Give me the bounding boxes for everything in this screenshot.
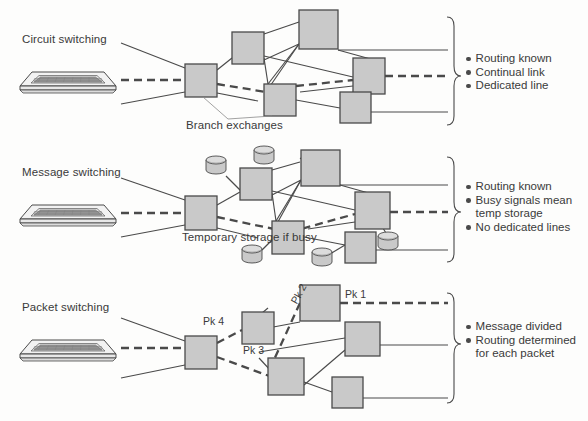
bullet-item: Continual link (466, 66, 552, 80)
bullets-circuit-switching: Routing known Continual link Dedicated l… (466, 52, 552, 93)
curly-brace-icon (447, 157, 461, 262)
storage-cylinder-icon (254, 146, 274, 164)
section-title-circuit-switching: Circuit switching (22, 33, 107, 45)
bullet-dot-icon (466, 57, 471, 62)
bullet-item: No dedicated lines (466, 221, 572, 235)
switching-node-box-icon (332, 377, 363, 408)
bullet-text: Routing known (476, 180, 552, 194)
switching-node-box-icon (355, 192, 390, 229)
packet-nodes (185, 285, 380, 408)
computer-terminal-keyboard-icon (20, 72, 116, 93)
bullet-text: Busy signals mean temp storage (476, 194, 573, 221)
section-title-message-switching: Message switching (22, 166, 121, 178)
diagram-canvas: Circuit switching Message switching Pack… (0, 0, 588, 421)
bullet-dot-icon (466, 185, 471, 190)
bullet-dot-icon (466, 84, 471, 89)
bullet-text: Message divided (476, 320, 562, 334)
bullet-text: Routing determined for each packet (476, 334, 576, 361)
computer-terminal-keyboard-icon (20, 340, 116, 361)
computer-terminal-keyboard-icon (20, 205, 116, 226)
storage-cylinder-icon (378, 232, 398, 250)
switching-node-box-icon (299, 10, 338, 49)
annotation-branch-exchanges: Branch exchanges (186, 119, 283, 131)
bullet-item: Routing determined for each packet (466, 334, 576, 361)
switching-node-box-icon (240, 168, 272, 200)
packet-label-pk4: Pk 4 (203, 315, 224, 327)
packet-label-pk1: Pk 1 (345, 288, 366, 300)
switching-node-box-icon (242, 312, 274, 344)
switching-node-box-icon (185, 336, 217, 369)
switching-node-box-icon (340, 92, 371, 123)
section-title-packet-switching: Packet switching (22, 301, 109, 313)
bullet-item: Routing known (466, 180, 572, 194)
switching-node-box-icon (301, 150, 340, 186)
curly-brace-icon (447, 17, 461, 125)
switching-node-box-icon (185, 196, 217, 230)
branch-exchange-leaders (203, 97, 272, 119)
switching-node-box-icon (264, 84, 296, 116)
bullet-dot-icon (466, 338, 471, 343)
packet-label-pk3: Pk 3 (243, 344, 264, 356)
storage-cylinder-icon (206, 156, 226, 174)
switching-node-box-icon (232, 32, 264, 64)
bullet-dot-icon (466, 70, 471, 75)
switching-node-box-icon (268, 358, 304, 395)
bullet-dot-icon (466, 325, 471, 330)
bullet-dot-icon (466, 198, 471, 203)
storage-cylinder-icon (242, 245, 262, 263)
switching-node-box-icon (185, 64, 217, 97)
bullets-message-switching: Routing known Busy signals mean temp sto… (466, 180, 572, 234)
curly-brace-icon (447, 293, 461, 403)
annotation-temporary-storage: Temporary storage if busy (182, 231, 268, 244)
switching-node-box-icon (353, 58, 385, 94)
bullet-text: Routing known (476, 52, 552, 66)
bullets-packet-switching: Message divided Routing determined for e… (466, 320, 576, 361)
bullet-item: Routing known (466, 52, 552, 66)
bullet-text: No dedicated lines (476, 221, 571, 235)
bullet-dot-icon (466, 225, 471, 230)
bullet-text: Dedicated line (476, 79, 549, 93)
storage-cylinder-icon (312, 248, 332, 266)
bullet-item: Busy signals mean temp storage (466, 194, 572, 221)
bullet-item: Message divided (466, 320, 576, 334)
switching-node-box-icon (345, 322, 380, 356)
bullet-item: Dedicated line (466, 79, 552, 93)
bullet-text: Continual link (476, 66, 545, 80)
switching-node-box-icon (345, 232, 376, 263)
